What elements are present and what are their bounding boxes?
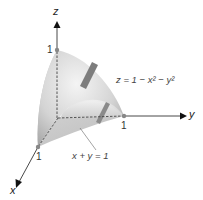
plane-equation: x + y = 1 (72, 151, 108, 161)
plane-label-leader (80, 128, 96, 150)
x-arrowhead-icon (16, 179, 23, 188)
y-tick-label: 1 (121, 121, 127, 131)
x-axis-label: x (10, 185, 16, 196)
surface-equation: z = 1 − x² − y² (116, 75, 174, 85)
surface-diagram (0, 0, 203, 200)
x-tick-label: 1 (36, 152, 42, 162)
z-axis-label: z (53, 6, 59, 17)
z-tick-point (55, 48, 59, 52)
y-axis-label: y (189, 109, 195, 120)
x-tick-point (36, 145, 40, 149)
z-arrowhead-icon (54, 21, 61, 28)
y-tick-point (122, 114, 126, 118)
y-arrowhead-icon (180, 113, 187, 120)
z-tick-label: 1 (47, 45, 53, 55)
